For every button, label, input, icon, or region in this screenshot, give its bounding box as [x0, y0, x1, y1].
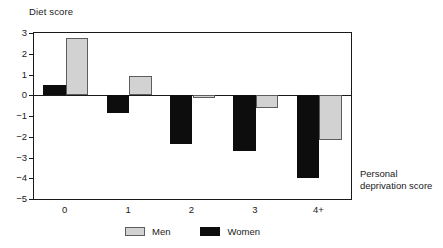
legend-item-women: Women — [200, 226, 260, 237]
legend-swatch-women-icon — [200, 227, 220, 236]
y-tick-mark — [29, 75, 34, 76]
y-tick-label: −5 — [16, 194, 27, 204]
legend-swatch-men-icon — [125, 227, 145, 236]
bar-women-0 — [43, 85, 66, 95]
legend-label-men: Men — [152, 226, 170, 237]
bar-women-3 — [233, 95, 256, 151]
bar-men-0 — [66, 38, 89, 95]
x-tick-label-1: 1 — [125, 204, 130, 215]
y-axis-title: Diet score — [29, 6, 73, 17]
diet-score-bar-chart: Diet score 3210−1−2−3−4−5 Personal depri… — [0, 0, 443, 248]
bar-women-4plus — [297, 95, 320, 178]
y-tick-label: 2 — [22, 49, 27, 59]
y-tick-mark — [29, 116, 34, 117]
chart-legend: Men Women — [33, 226, 352, 237]
bar-men-3 — [256, 95, 279, 107]
bar-women-2 — [170, 95, 193, 144]
y-tick-label: −2 — [16, 132, 27, 142]
y-tick-mark — [29, 95, 34, 96]
x-tick-label-2: 2 — [189, 204, 194, 215]
y-tick-label: −3 — [16, 153, 27, 163]
plot-frame: 3210−1−2−3−4−5 — [33, 32, 352, 200]
x-axis-title-line-1: Personal — [360, 168, 442, 180]
legend-item-men: Men — [125, 226, 170, 237]
x-axis-title: Personal deprivation score — [360, 168, 442, 192]
x-axis-title-line-2: deprivation score — [360, 180, 442, 192]
bar-men-1 — [129, 76, 152, 96]
y-tick-label: −1 — [16, 111, 27, 121]
y-tick-label: 3 — [22, 28, 27, 38]
y-tick-label: 1 — [22, 70, 27, 80]
x-tick-label-4plus: 4+ — [313, 204, 324, 215]
bar-men-4plus — [319, 95, 342, 140]
bar-women-1 — [107, 95, 130, 113]
y-tick-mark — [29, 54, 34, 55]
y-tick-mark — [29, 158, 34, 159]
y-tick-label: −4 — [16, 174, 27, 184]
y-tick-mark — [29, 199, 34, 200]
x-tick-label-3: 3 — [252, 204, 257, 215]
y-tick-label: 0 — [22, 91, 27, 101]
bar-men-2 — [193, 95, 216, 98]
y-tick-mark — [29, 137, 34, 138]
x-tick-label-0: 0 — [62, 204, 67, 215]
y-tick-mark — [29, 178, 34, 179]
legend-label-women: Women — [227, 226, 260, 237]
plot-area — [34, 33, 351, 199]
y-tick-mark — [29, 33, 34, 34]
